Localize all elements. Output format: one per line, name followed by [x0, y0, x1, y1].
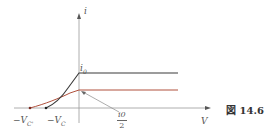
x-axis-label: V [201, 117, 208, 126]
point-neg-vc-prime [29, 107, 32, 110]
iv-diagram [0, 0, 277, 139]
neg-vc-label: −VC [47, 116, 66, 127]
figure-14-6: i V i0 −VC' −VC i0 2 図 14.6 [0, 0, 277, 139]
pointer-arrow-icon [81, 91, 86, 95]
x-axis-arrow-icon [205, 106, 211, 110]
neg-vc-prime-label: −VC' [13, 116, 33, 127]
figure-caption: 図 14.6 [226, 102, 264, 117]
y-axis-label: i [84, 7, 87, 16]
half-current-label: i0 2 [117, 111, 127, 130]
half-current-denominator: 2 [117, 121, 127, 130]
y-axis-arrow-icon [77, 13, 81, 19]
point-neg-vc [45, 107, 48, 110]
half-current-numerator: i0 [117, 111, 127, 121]
curve-half-current [30, 90, 178, 108]
pointer-line [83, 92, 119, 112]
i0-label: i0 [80, 64, 87, 75]
